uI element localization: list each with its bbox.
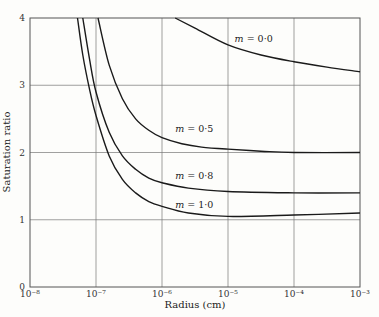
y-tick-label: 0 (19, 282, 25, 292)
curve-10 (78, 18, 361, 216)
x-tick-label: 10⁻⁶ (152, 289, 172, 299)
curve-08 (83, 18, 360, 193)
x-tick-label: 10⁻⁴ (284, 289, 304, 299)
x-axis-ticks: 10⁻⁸10⁻⁷10⁻⁶10⁻⁵10⁻⁴10⁻³ (20, 289, 370, 299)
curve-label: m = 0·5 (175, 123, 213, 134)
y-axis-ticks: 01234 (19, 13, 25, 292)
y-axis-label: Saturation ratio (1, 112, 12, 193)
x-tick-label: 10⁻⁷ (86, 289, 106, 299)
x-tick-label: 10⁻⁵ (218, 289, 238, 299)
y-tick-label: 4 (19, 13, 25, 23)
saturation-ratio-chart: 10⁻⁸10⁻⁷10⁻⁶10⁻⁵10⁻⁴10⁻³ 01234 m = 0·0m … (0, 0, 379, 317)
y-tick-label: 2 (19, 148, 25, 158)
curve-labels: m = 0·0m = 0·5m = 0·8m = 1·0 (175, 33, 273, 210)
curve-label: m = 1·0 (175, 199, 213, 210)
y-tick-label: 1 (19, 215, 25, 225)
curve-00 (175, 18, 360, 72)
curves (78, 18, 361, 216)
x-tick-label: 10⁻³ (350, 289, 370, 299)
x-axis-label: Radius (cm) (165, 299, 226, 310)
y-tick-label: 3 (19, 80, 25, 90)
curve-label: m = 0·0 (235, 33, 273, 44)
curve-label: m = 0·8 (175, 170, 213, 181)
